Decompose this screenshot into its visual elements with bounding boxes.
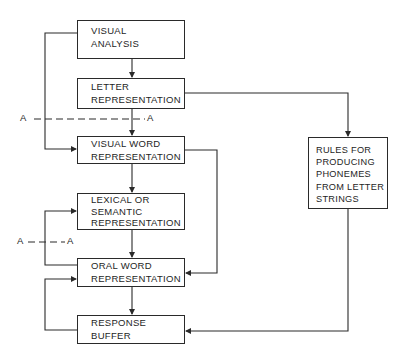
box-label-line: LEXICAL OR xyxy=(91,194,184,206)
section-marker-a-upper-right: A xyxy=(147,112,153,123)
visual-word-representation-box: VISUAL WORD REPRESENTATION xyxy=(77,136,185,164)
box-label-line: SEMANTIC xyxy=(91,206,184,218)
box-label-line: BUFFER xyxy=(91,330,184,343)
box-label-line: LETTER xyxy=(91,81,184,94)
box-label-line: REPRESENTATION xyxy=(91,151,184,164)
box-label-line: ORAL WORD xyxy=(91,260,184,273)
oral-word-representation-box: ORAL WORD REPRESENTATION xyxy=(77,258,185,287)
section-marker-a-lower-right: A xyxy=(67,235,73,246)
box-label-line: PHONEMES xyxy=(316,168,387,180)
lexical-semantic-representation-box: LEXICAL OR SEMANTIC REPRESENTATION xyxy=(77,193,185,230)
box-label-line: ANALYSIS xyxy=(91,38,184,51)
box-label-line: PRODUCING xyxy=(316,156,387,168)
rules-phonemes-box: RULES FOR PRODUCING PHONEMES FROM LETTER… xyxy=(308,137,388,209)
box-label-line: VISUAL WORD xyxy=(91,138,184,151)
section-marker-a-lower-left: A xyxy=(17,235,23,246)
visual-analysis-box: VISUAL ANALYSIS xyxy=(77,20,185,59)
box-label-line: RULES FOR xyxy=(316,144,387,156)
box-label-line: REPRESENTATION xyxy=(91,217,184,229)
reading-model-diagram: A A A A VISUAL ANALYSIS LETTER REPRESENT… xyxy=(0,0,406,362)
box-label-line: REPRESENTATION xyxy=(91,273,184,286)
box-label-line: FROM LETTER xyxy=(316,181,387,193)
letter-representation-box: LETTER REPRESENTATION xyxy=(77,78,185,109)
section-marker-a-upper-left: A xyxy=(20,112,26,123)
box-label-line: RESPONSE xyxy=(91,317,184,330)
box-label-line: VISUAL xyxy=(91,25,184,38)
response-buffer-box: RESPONSE BUFFER xyxy=(77,315,185,344)
box-label-line: STRINGS xyxy=(316,193,387,205)
box-label-line: REPRESENTATION xyxy=(91,94,184,107)
